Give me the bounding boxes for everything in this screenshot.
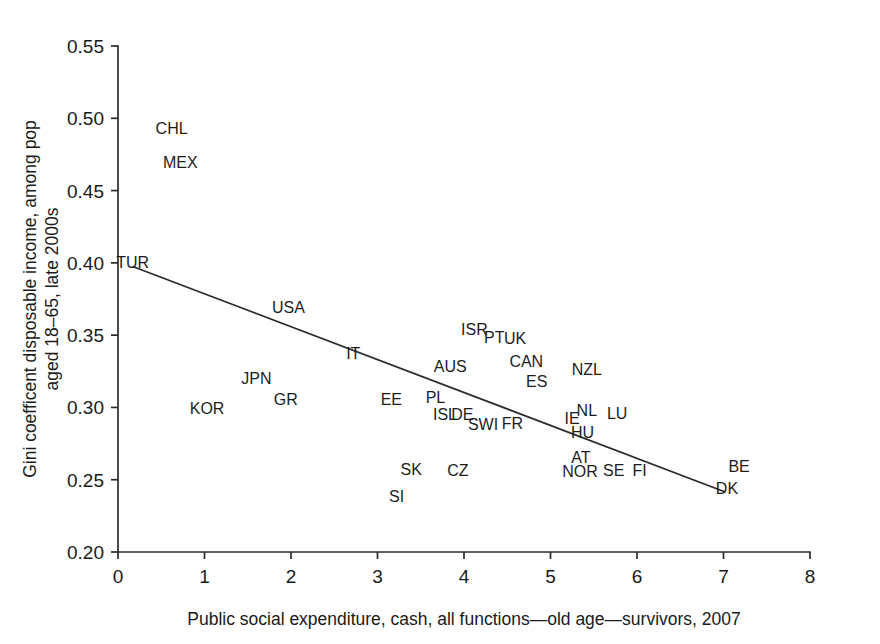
- y-tick-label: 0.50: [67, 108, 104, 129]
- data-point-label-tur: TUR: [116, 254, 149, 271]
- y-tick-label: 0.55: [67, 36, 104, 57]
- data-point-labels: CHLMEXTURUSAISRPTUKITCANAUSNZLJPNESGREEP…: [116, 120, 749, 506]
- x-axis-title: Public social expenditure, cash, all fun…: [187, 609, 741, 629]
- y-axis-tick-labels: 0.200.250.300.350.400.450.500.55: [67, 36, 104, 563]
- scatter-chart: 012345678 0.200.250.300.350.400.450.500.…: [0, 0, 880, 644]
- data-point-label-fi: FI: [632, 462, 646, 479]
- data-point-label-swi: SWI: [468, 416, 498, 433]
- data-point-label-se: SE: [603, 462, 624, 479]
- data-point-label-kor: KOR: [190, 400, 225, 417]
- data-point-label-nzl: NZL: [572, 361, 602, 378]
- data-point-label-pt: PT: [484, 329, 505, 346]
- y-tick-label: 0.25: [67, 470, 104, 491]
- data-point-label-hu: HU: [571, 424, 594, 441]
- data-point-label-mex: MEX: [163, 154, 198, 171]
- data-point-label-aus: AUS: [434, 358, 467, 375]
- y-tick-label: 0.20: [67, 542, 104, 563]
- data-point-label-it: IT: [346, 345, 360, 362]
- x-axis-tick-labels: 012345678: [113, 566, 816, 587]
- data-point-label-gr: GR: [274, 391, 298, 408]
- y-tick-label: 0.45: [67, 181, 104, 202]
- y-tick-label: 0.35: [67, 325, 104, 346]
- data-point-label-cz: CZ: [447, 462, 469, 479]
- y-tick-label: 0.40: [67, 253, 104, 274]
- data-point-label-fr: FR: [502, 415, 523, 432]
- data-point-label-jpn: JPN: [241, 370, 271, 387]
- data-point-label-uk: UK: [504, 330, 527, 347]
- data-point-label-be: BE: [728, 458, 749, 475]
- data-point-label-usa: USA: [272, 299, 305, 316]
- data-point-label-chl: CHL: [156, 120, 188, 137]
- x-tick-label: 4: [459, 566, 470, 587]
- data-point-label-es: ES: [526, 373, 547, 390]
- y-tick-label: 0.30: [67, 397, 104, 418]
- x-tick-label: 5: [545, 566, 556, 587]
- y-axis-title-line2: aged 18–65, late 2000s: [42, 207, 62, 390]
- chart-page: 012345678 0.200.250.300.350.400.450.500.…: [0, 0, 880, 644]
- data-point-label-dk: DK: [716, 480, 739, 497]
- x-tick-label: 0: [113, 566, 124, 587]
- x-tick-label: 6: [632, 566, 643, 587]
- x-tick-label: 8: [805, 566, 816, 587]
- x-tick-label: 7: [718, 566, 729, 587]
- data-point-label-sk: SK: [401, 461, 423, 478]
- x-tick-label: 3: [372, 566, 383, 587]
- data-point-label-can: CAN: [509, 353, 543, 370]
- data-point-label-si: SI: [389, 488, 404, 505]
- y-axis-title-line1: Gini coefficent disposable income, among…: [20, 120, 40, 478]
- data-point-label-nor: NOR: [562, 463, 598, 480]
- data-point-label-lu: LU: [607, 405, 627, 422]
- chart-tick-marks: [111, 46, 810, 559]
- trend-line-segment: [133, 266, 726, 492]
- data-point-label-ee: EE: [381, 391, 402, 408]
- trend-line: [133, 266, 726, 492]
- x-tick-label: 1: [199, 566, 210, 587]
- x-tick-label: 2: [286, 566, 297, 587]
- data-point-label-pl: PL: [426, 389, 446, 406]
